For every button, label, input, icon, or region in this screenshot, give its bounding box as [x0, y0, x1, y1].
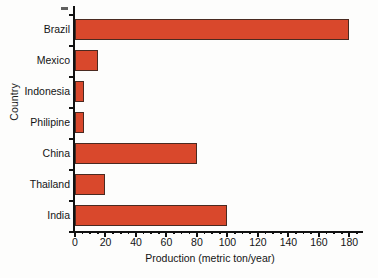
- y-tick-label-thailand: Thailand: [14, 179, 70, 190]
- bar-brazil: [75, 19, 349, 40]
- x-axis-tick-minor: [249, 231, 251, 234]
- x-axis-tick-minor: [143, 231, 145, 234]
- x-axis-tick-minor: [173, 231, 175, 234]
- x-axis-tick-minor: [356, 231, 358, 234]
- x-axis-tick-minor: [219, 231, 221, 234]
- bar-china: [75, 143, 197, 164]
- y-axis-tick-labels: BrazilMexicoIndonesiaPhilipineChinaThail…: [14, 14, 70, 231]
- x-axis-tick-minor: [189, 231, 191, 234]
- bar-india: [75, 205, 227, 226]
- y-tick-label-brazil: Brazil: [14, 24, 70, 35]
- x-axis-tick-minor: [326, 231, 328, 234]
- x-axis-tick-minor: [310, 231, 312, 234]
- y-axis-tick: [69, 169, 75, 171]
- y-tick-label-china: China: [14, 148, 70, 159]
- x-axis-tick-minor: [234, 231, 236, 234]
- x-axis-tick-minor: [158, 231, 160, 234]
- bar-indonesia: [75, 81, 84, 102]
- x-axis-tick-minor: [303, 231, 305, 234]
- x-axis-tick-minor: [265, 231, 267, 234]
- x-tick-label-180: 180: [329, 236, 369, 248]
- x-axis-tick-minor: [120, 231, 122, 234]
- scan-artifact-dash-icon: [61, 7, 68, 10]
- x-axis-title: Production (metric ton/year): [60, 252, 360, 264]
- x-axis-tick-minor: [82, 231, 84, 234]
- x-axis-tick-minor: [97, 231, 99, 234]
- x-axis-tick-minor: [112, 231, 114, 234]
- x-axis-tick-minor: [150, 231, 152, 234]
- x-axis-tick-minor: [242, 231, 244, 234]
- y-axis-tick: [69, 200, 75, 202]
- x-axis-tick-minor: [280, 231, 282, 234]
- bar-philipine: [75, 112, 84, 133]
- x-axis-tick-minor: [128, 231, 130, 234]
- x-axis-tick-minor: [211, 231, 213, 234]
- y-axis-tick: [69, 107, 75, 109]
- y-axis-tick: [69, 138, 75, 140]
- bar-chart-figure: Country BrazilMexicoIndonesiaPhilipineCh…: [0, 0, 378, 278]
- x-axis-tick-labels: 020406080100120140160180: [75, 236, 375, 250]
- plot-area: [75, 14, 357, 231]
- x-axis-tick-minor: [272, 231, 274, 234]
- bar-mexico: [75, 50, 98, 71]
- y-axis-tick: [69, 45, 75, 47]
- y-tick-label-india: India: [14, 210, 70, 221]
- y-tick-label-mexico: Mexico: [14, 55, 70, 66]
- y-tick-label-philipine: Philipine: [14, 117, 70, 128]
- x-axis-tick-minor: [181, 231, 183, 234]
- bar-thailand: [75, 174, 105, 195]
- x-axis-tick-minor: [341, 231, 343, 234]
- y-axis-tick: [69, 14, 75, 16]
- y-tick-label-indonesia: Indonesia: [14, 86, 70, 97]
- x-axis-tick-minor: [333, 231, 335, 234]
- y-axis-tick: [69, 76, 75, 78]
- x-axis-tick-minor: [89, 231, 91, 234]
- x-axis-tick-minor: [204, 231, 206, 234]
- x-axis-tick-minor: [295, 231, 297, 234]
